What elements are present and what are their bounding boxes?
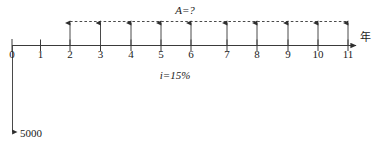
interest-rate-label: i=15% (160, 70, 191, 81)
axis-unit-label: 年 (360, 32, 371, 43)
tick-label-6: 6 (188, 49, 194, 60)
tick-label-9: 9 (285, 49, 291, 60)
tick-label-5: 5 (158, 49, 164, 60)
tick-label-10: 10 (313, 49, 324, 60)
outflow-amount-label: 5000 (20, 128, 42, 139)
uniform-series-label: A=? (175, 5, 195, 16)
tick-label-1: 1 (38, 49, 44, 60)
cash-flow-diagram: 0 1 2 3 4 5 6 7 8 9 10 11 年 A=? i=15% 50… (0, 0, 376, 149)
inflow-arrows (70, 23, 348, 45)
tick-label-8: 8 (254, 49, 260, 60)
tick-label-2: 2 (67, 49, 73, 60)
tick-label-11: 11 (343, 49, 354, 60)
tick-label-3: 3 (98, 49, 104, 60)
tick-label-0: 0 (9, 49, 15, 60)
tick-label-4: 4 (128, 49, 134, 60)
tick-label-7: 7 (224, 49, 230, 60)
